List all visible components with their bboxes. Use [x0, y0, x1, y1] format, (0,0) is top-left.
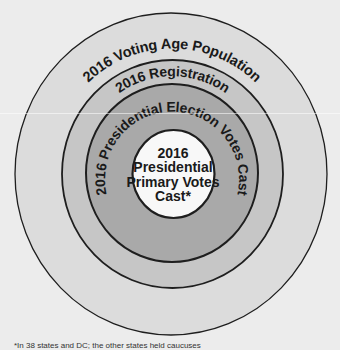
center-line-4: Cast*	[155, 188, 191, 204]
footnote: *In 38 states and DC; the other states h…	[14, 341, 201, 350]
scan-line	[0, 113, 340, 114]
center-line-2: Presidential	[133, 159, 212, 175]
